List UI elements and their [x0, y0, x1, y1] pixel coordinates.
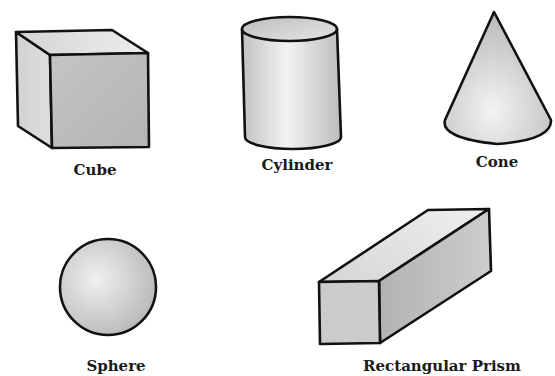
- cone-body: [445, 12, 551, 144]
- sphere-label: Sphere: [86, 357, 145, 375]
- rectangular-prism-label: Rectangular Prism: [363, 357, 521, 375]
- cone-label: Cone: [476, 153, 518, 171]
- sphere-shape: [60, 239, 156, 335]
- cube-shape: [16, 30, 149, 148]
- prism-front-face: [319, 281, 380, 344]
- sphere-body: [60, 239, 156, 335]
- shapes-diagram: Cube Cylinder Cone Sphere Rectangular Pr…: [0, 0, 555, 376]
- cylinder-shape: [242, 17, 341, 149]
- cone-shape: [445, 12, 551, 144]
- cylinder-body: [242, 29, 341, 149]
- cylinder-label: Cylinder: [262, 156, 334, 174]
- rectangular-prism-shape: [319, 209, 491, 344]
- cube-front-face: [50, 53, 149, 148]
- cube-label: Cube: [74, 161, 117, 179]
- cylinder-top: [242, 17, 337, 41]
